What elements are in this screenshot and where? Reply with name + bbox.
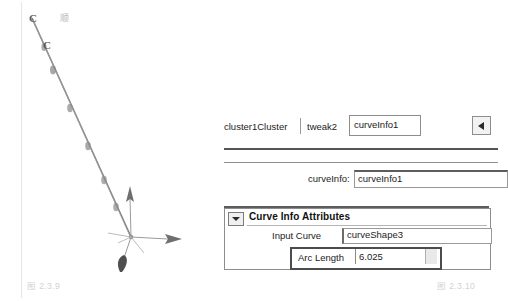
arc-length-input[interactable]: 6.025 — [355, 249, 437, 264]
attribute-editor-tab-strip: cluster1Cluster tweak2 curveInfo1 — [224, 115, 498, 139]
cluster-label-second: C — [43, 39, 51, 51]
triangle-left-icon — [478, 122, 484, 130]
input-curve-row: Input Curve curveShape3 — [225, 228, 490, 244]
node-name-value: curveInfo1 — [358, 173, 402, 184]
right-figure-attribute-editor: cluster1Cluster tweak2 curveInfo1 curveI… — [215, 0, 505, 301]
tab-curveinfo1[interactable]: curveInfo1 — [349, 115, 421, 136]
secondary-separator-rule — [224, 162, 498, 163]
section-header-rule — [247, 225, 487, 226]
tab-tweak2[interactable]: tweak2 — [307, 120, 337, 134]
tab-cluster1cluster[interactable]: cluster1Cluster — [224, 120, 287, 134]
right-figure-caption: 图 2.3.10 — [437, 279, 475, 291]
annotation-mark: 顺 — [60, 13, 69, 23]
input-curve-input[interactable]: curveShape3 — [342, 228, 492, 244]
node-name-input[interactable]: curveInfo1 — [354, 170, 508, 188]
node-name-label: curveInfo: — [308, 173, 350, 184]
axis-arrow-z — [118, 255, 127, 272]
cluster-label-top: C — [29, 12, 37, 24]
arc-length-value: 6.025 — [359, 251, 383, 262]
curve-info-attributes-section: Curve Info Attributes Input Curve curveS… — [224, 208, 491, 270]
section-title: Curve Info Attributes — [249, 211, 350, 222]
node-name-row: curveInfo: curveInfo1 — [224, 170, 498, 188]
input-curve-value: curveShape3 — [347, 229, 403, 240]
input-curve-label: Input Curve — [272, 230, 321, 241]
tab-scroll-left-button[interactable] — [472, 116, 491, 135]
maya-viewport-render: C C 顺 — [0, 0, 215, 301]
section-collapse-button[interactable] — [228, 212, 244, 226]
triangle-down-icon — [232, 217, 240, 221]
axis-gizmo — [108, 186, 182, 272]
left-figure-viewport: C C 顺 图 2.3.9 — [0, 0, 215, 301]
arc-length-spinner[interactable] — [425, 249, 437, 264]
tab-divider — [300, 118, 301, 134]
left-figure-caption: 图 2.3.9 — [27, 279, 60, 291]
header-separator-rule — [224, 148, 498, 150]
arc-length-label: Arc Length — [298, 252, 344, 263]
arc-length-row: Arc Length 6.025 — [290, 247, 442, 270]
section-header[interactable]: Curve Info Attributes — [225, 209, 490, 226]
